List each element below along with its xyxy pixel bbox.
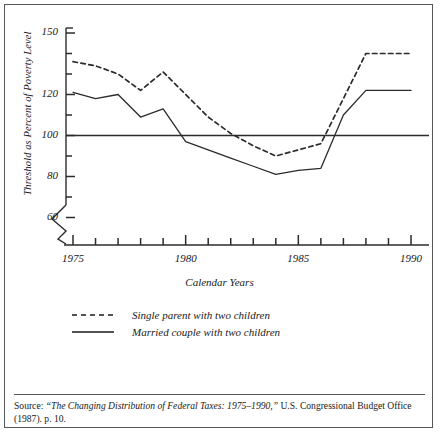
x-axis-title: Calendar Years — [0, 276, 439, 288]
y-tick-label-60: 60 — [28, 210, 58, 222]
source-title: “The Changing Distribution of Federal Ta… — [46, 400, 278, 411]
solid-line-icon — [70, 326, 116, 338]
x-tick-label-1990: 1990 — [389, 252, 433, 264]
y-tick-label-120: 120 — [28, 87, 58, 99]
plot-area: Threshold as Percent of Poverty Level Ca… — [0, 0, 439, 300]
dashed-line-icon — [70, 309, 116, 321]
chart-legend: Single parent with two children Married … — [70, 306, 410, 340]
legend-label-single-parent: Single parent with two children — [132, 309, 270, 321]
x-tick-label-1975: 1975 — [51, 252, 95, 264]
legend-item-married-couple: Married couple with two children — [70, 323, 410, 340]
x-tick-label-1980: 1980 — [164, 252, 208, 264]
x-tick-label-1985: 1985 — [276, 252, 320, 264]
legend-label-married-couple: Married couple with two children — [132, 326, 280, 338]
y-tick-label-150: 150 — [28, 25, 58, 37]
source-note: Source: “The Changing Distribution of Fe… — [14, 400, 426, 425]
source-prefix: Source: — [14, 400, 43, 411]
legend-item-single-parent: Single parent with two children — [70, 306, 410, 323]
source-divider — [14, 394, 425, 395]
y-tick-label-80: 80 — [28, 169, 58, 181]
y-tick-label-100: 100 — [28, 128, 58, 140]
figure-container: Threshold as Percent of Poverty Level Ca… — [0, 0, 439, 434]
